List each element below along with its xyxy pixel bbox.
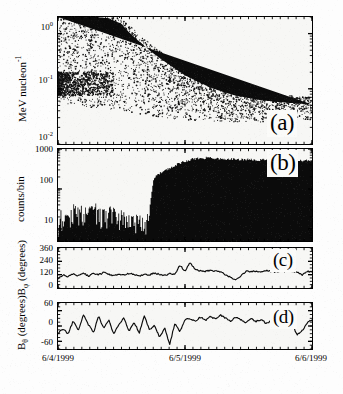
xtick-label-1: 6/5/1999 — [157, 353, 213, 363]
panel-cd-ylabel: Bθ (degrees)Bφ (degrees) — [15, 240, 27, 350]
figure-root: 100 10-1 10-2 MeV nucleon-1 (a) 1000 100… — [0, 0, 343, 394]
xtick-label-0: 6/4/1999 — [30, 353, 86, 363]
panel-d-letter: (d) — [270, 306, 297, 329]
panel-b-ytick-0: 1000 — [14, 145, 53, 154]
panel-c-letter: (c) — [270, 249, 296, 272]
panel-b-ylabel: counts/bin — [14, 176, 26, 222]
panel-a-letter: (a) — [267, 110, 297, 137]
panel-a-ytick-0: 100 — [20, 23, 53, 32]
xtick-label-2: 6/6/1999 — [283, 353, 339, 363]
panel-b-letter: (b) — [267, 150, 298, 177]
panel-a-ylabel: MeV nucleon-1 — [16, 56, 28, 122]
panel-a-ytick-2: 10-2 — [20, 133, 53, 142]
